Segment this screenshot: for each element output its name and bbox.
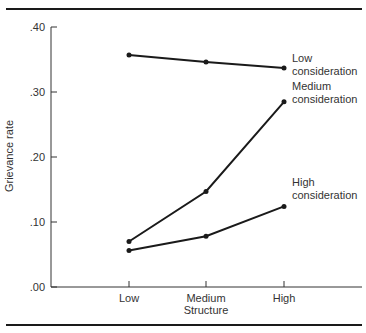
data-point [282,99,287,104]
data-point [127,53,132,58]
series-label: consideration [292,93,357,105]
data-point [282,204,287,209]
data-point [127,239,132,244]
data-point [204,60,209,65]
data-point [204,234,209,239]
series-label: consideration [292,189,357,201]
data-point [282,65,287,70]
x-axis-title: Structure [184,304,229,316]
series-line [129,206,284,250]
series-labels: LowconsiderationMediumconsiderationHighc… [292,52,357,202]
y-tick-label: .00 [30,281,45,293]
series-label: High [292,176,315,188]
data-point [204,189,209,194]
series-label: Medium [292,80,331,92]
series-line [129,102,284,242]
y-tick-label: .30 [30,86,45,98]
y-tick-label: .20 [30,151,45,163]
y-tick-label: .40 [30,21,45,33]
series-group [127,53,287,254]
x-tick-label: High [273,292,296,304]
line-chart: .00.10.20.30.40LowMediumHigh Lowconsider… [0,0,366,333]
data-point [127,248,132,253]
y-tick-label: .10 [30,216,45,228]
x-tick-label: Low [119,292,139,304]
x-tick-label: Medium [186,292,225,304]
series-label: consideration [292,65,357,77]
series-label: Low [292,52,312,64]
y-axis-title: Grievance rate [3,120,15,192]
